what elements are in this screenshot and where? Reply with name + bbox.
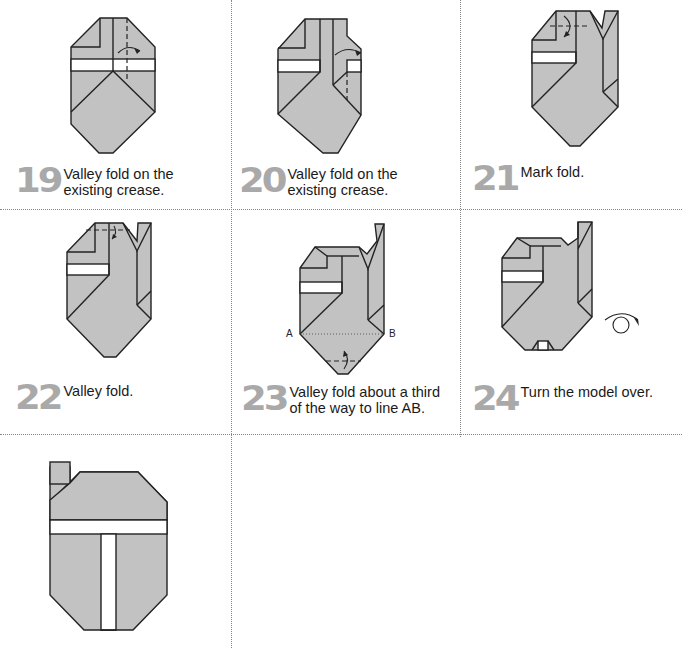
step-22: 22 Valley fold. bbox=[0, 209, 231, 434]
step-instruction-line1: Turn the model over. bbox=[521, 384, 653, 400]
final-result bbox=[0, 434, 231, 657]
step-number: 21 bbox=[472, 165, 518, 193]
step-number: 24 bbox=[472, 385, 518, 413]
step-number: 19 bbox=[15, 167, 61, 195]
diagram-step-22 bbox=[0, 209, 231, 379]
step-19: 19 Valley fold on the existing crease. bbox=[0, 0, 231, 209]
step-instruction-line1: Valley fold on the bbox=[64, 166, 174, 182]
step-20: 20 Valley fold on the existing crease. bbox=[231, 0, 460, 209]
diagram-step-19 bbox=[0, 0, 231, 160]
step-instruction-line2: existing crease. bbox=[64, 182, 174, 198]
turn-over-icon bbox=[605, 314, 639, 333]
diagram-step-21 bbox=[460, 0, 682, 160]
diagram-step-20 bbox=[231, 0, 460, 160]
step-instruction-line1: Mark fold. bbox=[521, 164, 585, 180]
diagram-step-24 bbox=[460, 209, 682, 379]
step-number: 23 bbox=[241, 385, 287, 413]
step-number: 20 bbox=[239, 167, 285, 195]
step-instruction-line2: existing crease. bbox=[288, 182, 398, 198]
step-instruction-line1: Valley fold about a third bbox=[290, 384, 440, 400]
step-instruction-line1: Valley fold. bbox=[64, 383, 134, 399]
diagram-final-model bbox=[0, 434, 231, 657]
diagram-step-23: A B bbox=[231, 209, 460, 379]
point-b-label: B bbox=[389, 328, 396, 339]
step-24: 24 Turn the model over. bbox=[460, 209, 682, 434]
step-number: 22 bbox=[15, 384, 61, 412]
step-instruction-line1: Valley fold on the bbox=[288, 166, 398, 182]
step-21: 21 Mark fold. bbox=[460, 0, 682, 209]
step-instruction-line2: of the way to line AB. bbox=[290, 400, 440, 416]
point-a-label: A bbox=[286, 328, 293, 339]
step-23: A B 23 Valley fold about a third of the … bbox=[231, 209, 460, 434]
